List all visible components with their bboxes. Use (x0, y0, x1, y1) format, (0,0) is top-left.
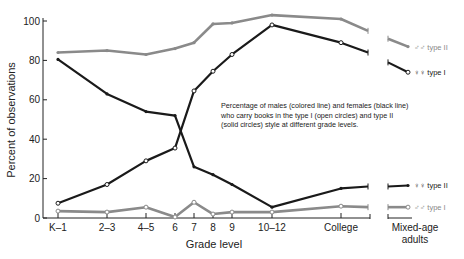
x-tick-label: 7 (191, 222, 197, 233)
y-tick-label: 100 (23, 16, 40, 27)
data-point (339, 204, 343, 208)
data-point (192, 41, 195, 44)
data-point (173, 146, 177, 150)
data-point (105, 49, 108, 52)
data-point (56, 201, 60, 205)
y-tick-label: 20 (29, 173, 41, 184)
data-point (339, 17, 342, 20)
series-line (58, 15, 368, 54)
legend-entry: ♂♂ type I (414, 203, 446, 212)
x-tick-label: 8 (210, 222, 216, 233)
data-point (339, 41, 343, 45)
series-male-type-II (56, 13, 409, 56)
adult-point (406, 184, 409, 187)
annotation-line: (solid circles) style at different grade… (221, 120, 358, 129)
data-point (56, 58, 59, 61)
data-point (105, 183, 109, 187)
data-point (105, 210, 109, 214)
data-point (211, 212, 215, 216)
data-point (144, 159, 148, 163)
legend-entry: ♀♀ type II (414, 181, 448, 190)
adult-point (406, 45, 409, 48)
x-tick-label-adults: Mixed-age (392, 222, 439, 233)
data-point (230, 52, 234, 56)
data-point (192, 165, 195, 168)
data-point (105, 92, 108, 95)
y-tick-label: 60 (29, 94, 41, 105)
data-point (56, 209, 60, 213)
series-male-type-I (56, 200, 410, 219)
data-point (270, 13, 273, 16)
x-tick-label: 2–3 (99, 222, 116, 233)
data-point (192, 89, 196, 93)
data-point (230, 21, 233, 24)
x-tick-label: College (324, 222, 358, 233)
legend-entry: ♂♂ type II (414, 43, 448, 52)
data-point (339, 187, 342, 190)
y-axis-title: Percent of observations (5, 62, 17, 178)
data-point (144, 53, 147, 56)
x-tick-label-adults: adults (402, 234, 429, 245)
annotation: Percentage of males (colored line) and f… (220, 101, 408, 129)
x-axis-title: Grade level (186, 238, 242, 250)
y-tick-label: 0 (34, 213, 40, 224)
data-point (192, 200, 196, 204)
line-chart: 020406080100K–12–34–5678910–12CollegeMix… (0, 0, 464, 259)
data-point (144, 205, 148, 209)
data-point (211, 173, 214, 176)
data-point (173, 114, 176, 117)
legend: ♂♂ type II♀♀ type I♀♀ type II♂♂ type I (414, 43, 448, 213)
series-female-type-II (56, 58, 409, 209)
x-tick-label: 10–12 (258, 222, 286, 233)
legend-entry: ♀♀ type I (414, 68, 446, 77)
data-point (211, 69, 215, 73)
x-tick-label: 6 (172, 222, 178, 233)
adult-point (406, 205, 410, 209)
annotation-line: who carry books in the type I (open circ… (220, 111, 393, 120)
data-point (144, 110, 147, 113)
x-tick-label: 4–5 (138, 222, 155, 233)
data-point (230, 210, 234, 214)
data-point (270, 210, 274, 214)
adult-line (388, 185, 408, 186)
annotation-line: Percentage of males (colored line) and f… (221, 101, 408, 110)
adult-line (388, 62, 408, 72)
x-tick-label: 9 (229, 222, 235, 233)
y-tick-label: 40 (29, 134, 41, 145)
data-point (173, 47, 176, 50)
data-point (270, 206, 273, 209)
x-tick-label: K–1 (49, 222, 67, 233)
data-point (230, 183, 233, 186)
data-point (173, 215, 177, 219)
adult-point (406, 70, 410, 74)
adult-line (388, 39, 408, 47)
y-tick-label: 80 (29, 55, 41, 66)
data-point (270, 23, 274, 27)
data-point (56, 51, 59, 54)
data-point (211, 22, 214, 25)
